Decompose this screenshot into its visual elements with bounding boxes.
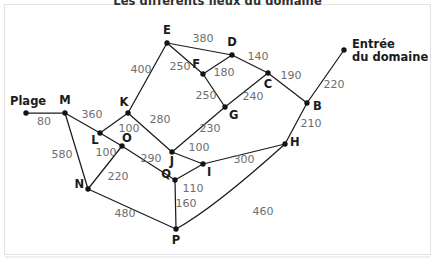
node-label-p: P <box>172 233 180 247</box>
edge-weight-d-c: 140 <box>248 50 269 63</box>
node-label-e: E <box>163 23 171 37</box>
entree-label: Entréedu domaine <box>352 37 428 64</box>
node-label-j: J <box>169 154 174 168</box>
edge-weight-c-b: 190 <box>281 69 302 82</box>
node-label-g: G <box>229 108 238 122</box>
node-label-i: I <box>207 165 211 179</box>
node-label-l: L <box>91 133 99 147</box>
edge-weight-b-entree: 220 <box>324 78 345 91</box>
graph-canvas: 8036058040038025018014025024019022021010… <box>0 0 435 266</box>
node-d <box>229 52 234 57</box>
node-label-c: C <box>264 77 272 91</box>
edge-weight-e-d: 380 <box>193 32 214 45</box>
node-f <box>200 71 205 76</box>
diagram-figure: Les différents lieux du domaine 80360580… <box>0 0 435 266</box>
node-k <box>125 110 130 115</box>
node-b <box>304 100 309 105</box>
node-g <box>222 104 227 109</box>
edge-weight-m-n: 580 <box>52 148 73 161</box>
edge-weight-e-f: 250 <box>170 60 191 73</box>
node-label-q: Q <box>161 167 171 181</box>
node-c <box>265 70 270 75</box>
edge-weight-l-o: 100 <box>96 146 117 159</box>
edge-weight-h-p: 460 <box>253 205 274 218</box>
edge-e-k <box>128 43 167 113</box>
node-label-m: M <box>59 93 70 107</box>
node-label-f: F <box>192 57 200 71</box>
edge-weight-i-q: 110 <box>183 182 204 195</box>
edge-weight-b-h: 210 <box>301 117 322 130</box>
weights-layer: 8036058040038025018014025024019022021010… <box>37 32 345 220</box>
edge-b-entree <box>307 50 344 103</box>
edge-weight-n-p: 480 <box>115 207 136 220</box>
node-label-k: K <box>120 95 130 109</box>
node-i <box>200 161 205 166</box>
node-label-h: H <box>290 135 300 149</box>
node-label-o: O <box>122 131 132 145</box>
edge-weight-c-g: 240 <box>243 90 264 103</box>
edge-weight-g-j: 230 <box>200 122 221 135</box>
edge-weight-e-k: 400 <box>131 63 152 76</box>
edge-weight-o-n: 220 <box>108 170 129 183</box>
node-labels-layer: MEDFCBGKLOJIQNHP <box>59 23 321 247</box>
edge-weight-i-h: 300 <box>234 153 255 166</box>
edge-weight-plage-m: 80 <box>37 115 51 128</box>
node-label-d: D <box>227 35 237 49</box>
node-p <box>173 226 178 231</box>
node-n <box>85 186 90 191</box>
node-label-b: B <box>313 99 322 113</box>
node-e <box>164 40 169 45</box>
edge-weight-k-j: 280 <box>150 113 171 126</box>
plage-label: Plage <box>10 94 46 108</box>
node-q <box>172 177 177 182</box>
node-entree <box>341 47 346 52</box>
edge-weight-q-p: 160 <box>176 197 197 210</box>
edge-weight-m-l: 360 <box>82 108 103 121</box>
node-m <box>62 110 67 115</box>
node-h <box>282 141 287 146</box>
edge-weight-o-q: 290 <box>141 152 162 165</box>
edge-weight-d-f: 180 <box>214 66 235 79</box>
node-label-n: N <box>74 177 84 191</box>
edge-i-q <box>175 164 203 180</box>
edge-weight-f-g: 250 <box>196 89 217 102</box>
node-plage <box>23 110 28 115</box>
edge-weight-j-i: 100 <box>189 141 210 154</box>
